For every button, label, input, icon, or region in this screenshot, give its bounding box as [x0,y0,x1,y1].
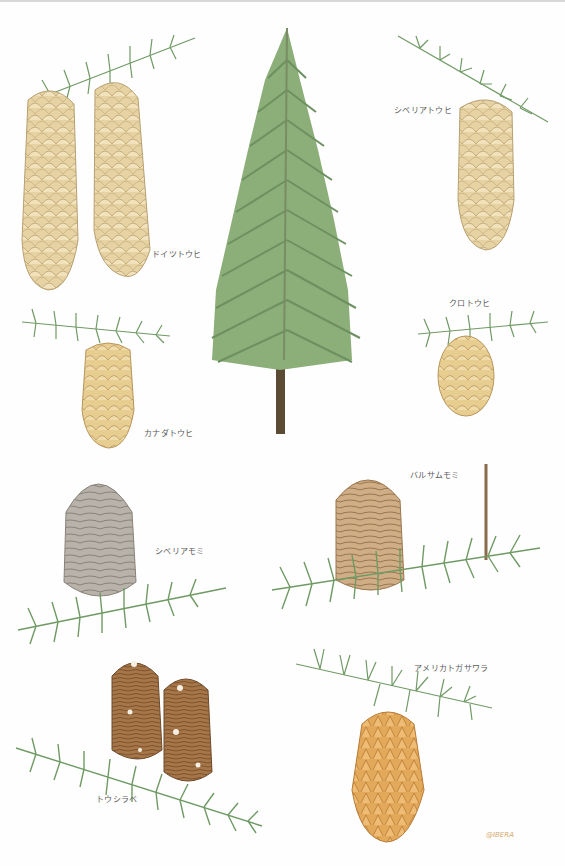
label-douglas-fir: アメリカトガサワラ [414,662,489,673]
label-balsam-fir: バルサムモミ [410,469,460,480]
veitch-fir-specimen [16,661,262,833]
conifer-illustrations [0,0,565,866]
label-siberian-fir: シベリアモミ [155,545,205,556]
douglas-fir-specimen [296,649,492,842]
label-white-spruce: カナダトウヒ [144,427,194,438]
illustration-plate: シベリアトウヒ ドイツトウヒ クロトウヒ カナダトウヒ バルサムモミ シベリアモ… [0,0,565,866]
label-veitch-fir: トウシラベ [96,793,138,804]
label-siberian-spruce: シベリアトウヒ [394,104,452,115]
label-black-spruce: クロトウヒ [449,297,491,308]
balsam-fir-specimen [272,464,540,609]
black-spruce-specimen [418,311,548,416]
spruce-tree-illustration [212,28,360,434]
label-norway-spruce: ドイツトウヒ [152,248,202,259]
siberian-spruce-specimen [398,36,548,250]
artist-signature: @IBERA [486,831,514,839]
siberian-fir-specimen [18,484,226,644]
